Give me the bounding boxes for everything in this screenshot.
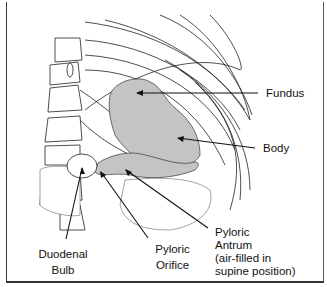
label-line: Orifice xyxy=(145,259,200,272)
label-fundus: Fundus xyxy=(266,87,304,100)
label-duodenal-bulb: Duodenal Bulb xyxy=(28,248,98,277)
stomach-shape xyxy=(95,79,200,178)
label-line: supine position) xyxy=(215,265,296,278)
label-pyloric-antrum: Pyloric Antrum (air-filled in supine pos… xyxy=(215,226,296,278)
label-line: Pyloric xyxy=(145,243,200,256)
label-pyloric-orifice: Pyloric Orifice xyxy=(145,243,200,272)
label-line: Pyloric xyxy=(215,226,296,239)
duodenal-bulb-shape xyxy=(67,154,97,178)
label-line: Antrum xyxy=(215,239,296,252)
label-body: Body xyxy=(263,142,289,155)
label-line: Duodenal xyxy=(28,248,98,261)
label-line: Bulb xyxy=(28,264,98,277)
label-line: (air-filled in xyxy=(215,252,296,265)
